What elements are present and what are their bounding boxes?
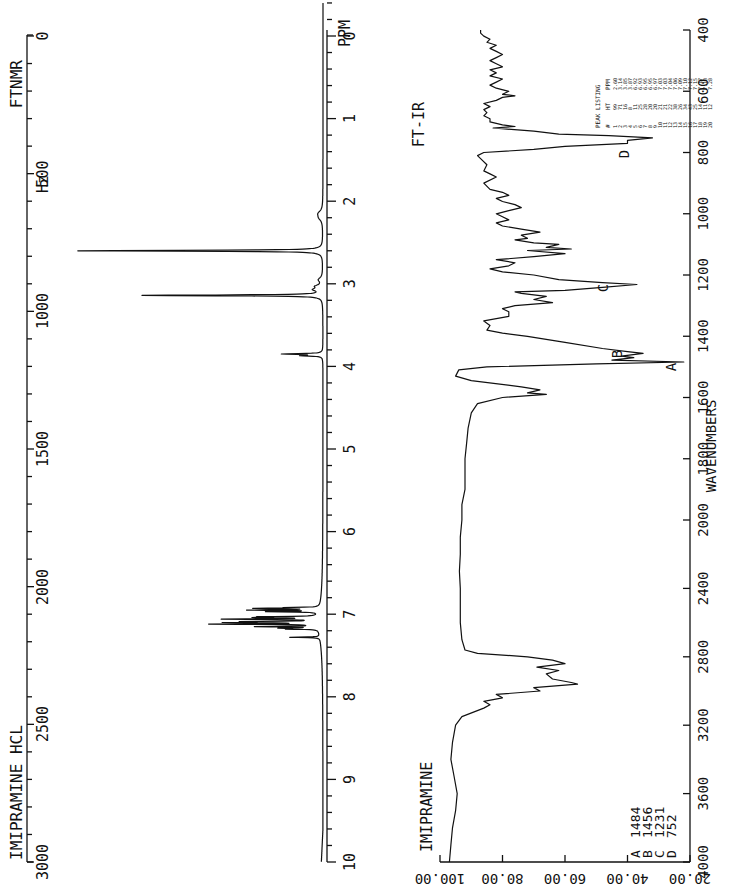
svg-text:1000: 1000 <box>34 293 52 329</box>
ppm-tick-label: 6 <box>341 527 359 536</box>
legend-value-d: 752 <box>664 815 679 838</box>
hz-unit-label: Hz <box>34 175 52 193</box>
svg-text:2000: 2000 <box>34 569 52 605</box>
ir-x-tick-label: 2800 <box>695 640 711 674</box>
ir-peak-legend: A 1484 B 1456 C 1231 D 752 <box>628 807 679 858</box>
peak-marker-d: D <box>616 150 632 158</box>
peak-marker-a: A <box>663 362 679 371</box>
ppm-tick-label: 2 <box>341 197 359 206</box>
ir-x-tick-label: 3600 <box>695 777 711 811</box>
nmr-ppm-axis <box>327 3 336 862</box>
ir-x-tick-label: 3200 <box>695 708 711 742</box>
ir-peak-markers: A B C D <box>595 150 679 371</box>
nmr-title: FTNMR <box>7 60 26 109</box>
ppm-tick-label: 7 <box>341 610 359 619</box>
spectra-canvas: 0 500 1000 1500 2000 2500 3000 Hz FTNMR … <box>0 0 742 891</box>
ir-y-tick-labels: 20.0040.0060.0080.00100.00 <box>415 871 711 887</box>
svg-text:0: 0 <box>34 31 52 40</box>
ppm-tick-label: 3 <box>341 279 359 288</box>
peak-listing-header-num: # <box>604 124 611 128</box>
ppm-tick-label: 4 <box>341 362 359 371</box>
nmr-spectrum-trace <box>78 3 323 862</box>
peak-listing-header-ht: HT <box>604 102 611 110</box>
ppm-tick-label: 1 <box>341 114 359 123</box>
ppm-tick-label: 10 <box>341 853 359 871</box>
ppm-tick-label: 8 <box>341 692 359 701</box>
peak-marker-c: C <box>595 284 611 292</box>
nmr-ppm-tick-labels: 012345678910 <box>341 31 359 871</box>
ir-y-tick-label: 40.00 <box>606 871 648 887</box>
nmr-hz-tick-labels: 0 500 1000 1500 2000 2500 3000 Hz <box>34 31 52 880</box>
peak-row-num: 20 <box>707 122 713 128</box>
ir-title: FT-IR <box>410 101 428 147</box>
nmr-hz-axis <box>27 35 34 862</box>
ir-spectrum-trace <box>449 30 683 862</box>
ir-x-tick-label: 800 <box>695 140 711 165</box>
ir-x-tick-label: 2000 <box>695 503 711 537</box>
ir-x-tick-label: 1200 <box>695 258 711 292</box>
ir-x-tick-label: 600 <box>695 79 711 104</box>
ir-x-tick-label: 1400 <box>695 319 711 353</box>
peak-listing-header-ppm: PPM <box>604 79 611 90</box>
svg-text:2500: 2500 <box>34 706 52 742</box>
nmr-compound-name: IMIPRAMINE HCL <box>7 725 26 860</box>
ir-x-axis-title: WAVENUMBERS <box>703 400 719 493</box>
ir-y-tick-label: 80.00 <box>481 871 523 887</box>
ir-x-tick-label: 1000 <box>695 197 711 231</box>
ppm-tick-label: 5 <box>341 444 359 453</box>
peak-listing-title: PEAK LISTING <box>594 84 601 128</box>
ppm-tick-label: 9 <box>341 775 359 784</box>
ir-x-axis <box>683 30 690 862</box>
ppm-unit-label: PPM <box>336 20 354 47</box>
svg-text:3000: 3000 <box>34 844 52 880</box>
ir-y-tick-label: 100.00 <box>415 871 466 887</box>
ir-y-tick-label: 60.00 <box>544 871 586 887</box>
ir-x-tick-label: 2400 <box>695 572 711 606</box>
svg-text:1500: 1500 <box>34 431 52 467</box>
ir-y-tick-label: 20.00 <box>669 871 711 887</box>
peak-marker-b: B <box>609 350 625 358</box>
ir-x-tick-label: 400 <box>695 17 711 42</box>
ir-compound-name: IMIPRAMINE <box>418 762 436 852</box>
legend-mark-d: D <box>664 850 679 858</box>
